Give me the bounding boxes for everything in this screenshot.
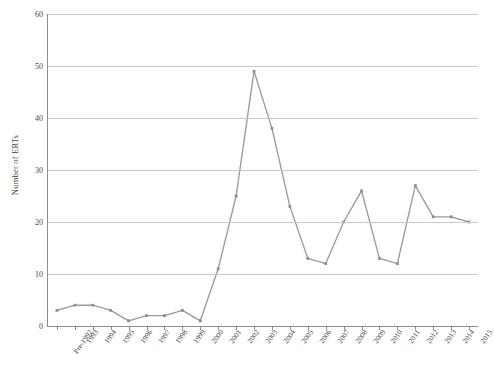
data-point-2009 bbox=[360, 189, 363, 192]
x-tick-label-1998: 1998 bbox=[174, 328, 190, 345]
series-markers bbox=[56, 70, 471, 322]
data-point-2014 bbox=[450, 215, 453, 218]
x-axis-tick-labels: Pre-199219931994199519961997199819992000… bbox=[0, 328, 491, 372]
data-point-2003 bbox=[253, 70, 256, 73]
x-tick-label-1997: 1997 bbox=[156, 328, 172, 345]
data-point-2005 bbox=[288, 205, 291, 208]
data-point-1994 bbox=[91, 304, 94, 307]
x-tick-label-1999: 1999 bbox=[192, 328, 208, 345]
x-tick-label-2014: 2014 bbox=[460, 328, 476, 345]
data-point-1997 bbox=[145, 314, 148, 317]
data-point-2007 bbox=[324, 262, 327, 265]
gridline-40 bbox=[48, 118, 478, 119]
plot-area bbox=[47, 14, 478, 327]
x-tick-label-2005: 2005 bbox=[299, 328, 315, 345]
x-tick-label-2015: 2015 bbox=[478, 328, 494, 345]
x-tick-label-2002: 2002 bbox=[245, 328, 261, 345]
y-tick-label-50: 50 bbox=[19, 62, 43, 71]
x-tick-label-2013: 2013 bbox=[443, 328, 459, 345]
x-tick-label-2000: 2000 bbox=[210, 328, 226, 345]
y-tick-label-10: 10 bbox=[19, 270, 43, 279]
data-point-1996 bbox=[127, 319, 130, 322]
x-tick-label-1995: 1995 bbox=[120, 328, 136, 345]
x-tick-label-2003: 2003 bbox=[263, 328, 279, 345]
gridline-20 bbox=[48, 222, 478, 223]
data-point-2001 bbox=[217, 267, 220, 270]
x-tick-label-2004: 2004 bbox=[281, 328, 297, 345]
data-point-2011 bbox=[396, 262, 399, 265]
x-tick-label-2008: 2008 bbox=[353, 328, 369, 345]
data-point-1995 bbox=[109, 309, 112, 312]
series-line-path bbox=[57, 71, 469, 321]
y-tick-label-30: 30 bbox=[19, 166, 43, 175]
data-point-2012 bbox=[414, 184, 417, 187]
data-point-1999 bbox=[181, 309, 184, 312]
data-point-2010 bbox=[378, 257, 381, 260]
data-point-1993 bbox=[73, 304, 76, 307]
x-tick-label-2009: 2009 bbox=[371, 328, 387, 345]
data-point-2000 bbox=[199, 319, 202, 322]
gridline-60 bbox=[48, 14, 478, 15]
data-point-Pre-1992 bbox=[56, 309, 59, 312]
y-tick-label-60: 60 bbox=[19, 10, 43, 19]
y-axis-tick-labels: 0102030405060 bbox=[17, 14, 43, 326]
x-tick-label-1996: 1996 bbox=[138, 328, 154, 345]
data-point-2004 bbox=[271, 127, 274, 130]
data-point-1998 bbox=[163, 314, 166, 317]
data-point-2002 bbox=[235, 195, 238, 198]
data-point-2006 bbox=[306, 257, 309, 260]
x-tick-label-2006: 2006 bbox=[317, 328, 333, 345]
y-tick-label-40: 40 bbox=[19, 114, 43, 123]
x-tick-label-2001: 2001 bbox=[228, 328, 244, 345]
gridline-10 bbox=[48, 274, 478, 275]
x-tick-label-2007: 2007 bbox=[335, 328, 351, 345]
x-tick-label-1994: 1994 bbox=[102, 328, 118, 345]
y-tick-label-20: 20 bbox=[19, 218, 43, 227]
data-point-2013 bbox=[432, 215, 435, 218]
gridline-30 bbox=[48, 170, 478, 171]
x-tick-label-2012: 2012 bbox=[425, 328, 441, 345]
x-tick-label-2010: 2010 bbox=[389, 328, 405, 345]
gridline-50 bbox=[48, 66, 478, 67]
x-tick-label-2011: 2011 bbox=[407, 328, 423, 345]
